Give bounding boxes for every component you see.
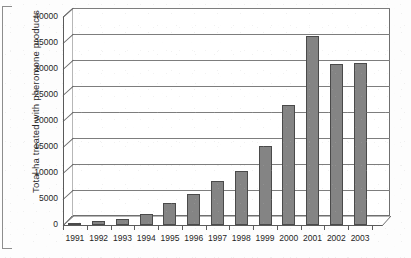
- x-axis-tick-label: 2000: [276, 233, 302, 244]
- bar[interactable]: [306, 36, 319, 225]
- bar-front-face: [259, 146, 272, 225]
- bar-front-face: [187, 194, 200, 225]
- x-axis-tick: [253, 226, 254, 230]
- x-axis-tick: [111, 226, 112, 230]
- y-axis-tick-label: 25000: [22, 90, 58, 99]
- x-axis-tick-label: 2002: [323, 233, 349, 244]
- x-axis-tick-label: 1993: [109, 233, 135, 244]
- gridline: [72, 8, 390, 9]
- x-axis-tick: [206, 226, 207, 230]
- x-axis-tick-label: 1991: [62, 233, 88, 244]
- bar[interactable]: [92, 221, 105, 225]
- x-axis-tick-label: 2001: [300, 233, 326, 244]
- chart-figure: Total ha treated with pheromone products…: [0, 0, 411, 258]
- x-axis-tick-label: 1999: [252, 233, 278, 244]
- bar-front-face: [306, 36, 319, 225]
- bar[interactable]: [163, 203, 176, 225]
- bar[interactable]: [116, 219, 129, 225]
- x-axis-tick: [324, 226, 325, 230]
- x-axis-tick-label: 2003: [347, 233, 373, 244]
- bar[interactable]: [330, 64, 343, 225]
- x-axis-tick-label: 1992: [86, 233, 112, 244]
- y-axis-tick-label: 10000: [22, 168, 58, 177]
- x-axis-tick-label: 1995: [157, 233, 183, 244]
- x-axis-tick: [87, 226, 88, 230]
- y-axis-line: [63, 17, 64, 226]
- x-axis-tick-label: 1997: [205, 233, 231, 244]
- bar-front-face: [140, 214, 153, 225]
- plot-area: [63, 17, 381, 225]
- bar[interactable]: [235, 171, 248, 225]
- bar[interactable]: [282, 105, 295, 225]
- x-axis-tick: [63, 226, 64, 230]
- bar-front-face: [282, 105, 295, 225]
- y-axis-tick-labels: 0500010000150002000025000300003500040000: [18, 17, 58, 226]
- x-axis-tick-label: 1994: [133, 233, 159, 244]
- bar[interactable]: [211, 181, 224, 225]
- y-axis-tick-label: 15000: [22, 142, 58, 151]
- y-axis-tick-label: 30000: [22, 64, 58, 73]
- y-axis-tick-label: 5000: [22, 194, 58, 203]
- figure-border-corner: [11, 6, 12, 7]
- x-axis-tick: [277, 226, 278, 230]
- bar-front-face: [92, 221, 105, 225]
- y-axis-tick-label: 35000: [22, 38, 58, 47]
- x-axis-tick: [301, 226, 302, 230]
- bar[interactable]: [187, 194, 200, 225]
- gridline: [72, 34, 390, 35]
- bar[interactable]: [68, 223, 81, 225]
- x-axis-tick: [372, 226, 373, 230]
- bar[interactable]: [354, 63, 367, 225]
- y-axis-tick-label: 20000: [22, 116, 58, 125]
- bar[interactable]: [140, 214, 153, 225]
- x-axis-tick-label: 1998: [228, 233, 254, 244]
- x-axis-tick: [182, 226, 183, 230]
- x-axis-tick-label: 1996: [181, 233, 207, 244]
- x-axis-tick: [229, 226, 230, 230]
- x-axis-tick: [134, 226, 135, 230]
- bar-front-face: [330, 64, 343, 225]
- bar[interactable]: [259, 146, 272, 225]
- y-axis-tick-label: 0: [22, 220, 58, 229]
- x-axis-ticks: [63, 226, 393, 232]
- x-axis-tick: [348, 226, 349, 230]
- y-axis-tick-label: 40000: [22, 12, 58, 21]
- bar-front-face: [116, 219, 129, 225]
- bar-front-face: [354, 63, 367, 225]
- bar-front-face: [235, 171, 248, 225]
- bar-front-face: [211, 181, 224, 225]
- gridline: [72, 60, 390, 61]
- x-axis-tick: [158, 226, 159, 230]
- figure-border-fragment: [2, 6, 12, 249]
- bar-front-face: [163, 203, 176, 225]
- x-axis-tick-labels: 1991199219931994199519961997199819992000…: [63, 233, 393, 247]
- bar-front-face: [68, 223, 81, 225]
